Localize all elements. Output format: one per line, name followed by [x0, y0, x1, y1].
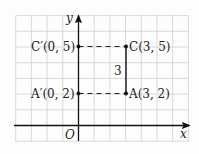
grid [16, 16, 189, 142]
x-axis-label: x [180, 127, 187, 141]
point-c [124, 45, 128, 49]
point-c-prime-label: C′(0, 5) [31, 40, 75, 54]
segment-ac-length-label: 3 [114, 64, 122, 78]
point-a-prime-label: A′(0, 2) [30, 87, 75, 101]
origin-label: O [65, 128, 75, 142]
point-a [124, 92, 128, 96]
coordinate-plane-figure: y x O C′(0, 5) C(3, 5) A′(0, 2) A(3, 2) … [0, 0, 199, 154]
point-a-label: A(3, 2) [128, 87, 170, 101]
point-c-prime [77, 45, 81, 49]
point-a-prime [77, 92, 81, 96]
y-axis-label: y [65, 11, 73, 25]
point-c-label: C(3, 5) [129, 40, 170, 54]
coordinate-plane-svg: y x O C′(0, 5) C(3, 5) A′(0, 2) A(3, 2) … [0, 0, 199, 154]
